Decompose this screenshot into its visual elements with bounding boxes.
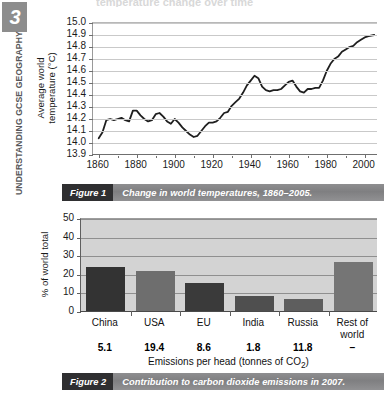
figure-1-caption-label: Figure 1	[62, 184, 113, 201]
figure-1-caption-text: Change in world temperatures, 1860–2005.	[113, 184, 312, 201]
chapter-side-strip: 3 UNDERSTANDING GCSE GEOGRAPHY	[0, 0, 30, 404]
figure-1-y-tick-mark	[89, 155, 93, 156]
figure-2-category-label: China	[80, 317, 130, 329]
figure-1-x-tick-mark	[137, 154, 138, 158]
figure-1-y-tick-label: 14.6	[30, 65, 86, 75]
figure-2-y-tick-label: 50	[30, 213, 74, 223]
figure-2-gridline	[81, 293, 377, 294]
figure-1-x-tick-mark	[251, 154, 252, 158]
figure-1-x-tick-label: 1880	[116, 160, 156, 170]
figure-1-y-tick-mark	[89, 23, 93, 24]
figure-1-y-tick-label: 14.5	[30, 77, 86, 87]
figure-2-category-label: India	[229, 317, 279, 329]
figure-1-y-tick-label: 15.0	[30, 17, 86, 27]
figure-1-x-tick-mark	[346, 156, 347, 159]
figure-2-category-label: EU	[179, 317, 229, 329]
figure-2-gridline	[81, 256, 377, 257]
figure-1-y-tick-mark	[89, 47, 93, 48]
figure-1-y-tick-label: 14.2	[30, 113, 86, 123]
figure-1-y-tick-mark	[89, 83, 93, 84]
bar	[235, 296, 274, 311]
category-label-line: world	[340, 329, 364, 340]
figure-1-temperature-line	[93, 23, 378, 155]
figure-2-category-label: Rest ofworld	[328, 317, 378, 340]
figure-1-caption-bar: Figure 1 Change in world temperatures, 1…	[62, 184, 384, 201]
figure-1-y-tick-mark	[89, 131, 93, 132]
category-label-line: Russia	[287, 317, 318, 328]
figure-1-gridline	[93, 35, 377, 36]
figure-1-y-tick-mark	[89, 71, 93, 72]
figure-1-gridline	[93, 23, 377, 24]
figure-1-y-tick-label: 14.1	[30, 125, 86, 135]
figure-1-y-tick-mark	[89, 95, 93, 96]
figure-1-block: Average world temperature (°C) Figure 1 …	[30, 14, 385, 204]
figure-1-gridline	[93, 47, 377, 48]
figure-2-category-separator	[279, 311, 280, 316]
figure-2-y-tick-mark	[77, 275, 81, 276]
figure-1-y-tick-label: 14.3	[30, 101, 86, 111]
figure-2-gridline	[81, 219, 377, 220]
figure-1-x-tick-mark	[270, 156, 271, 159]
figure-2-caption-bar: Figure 2 Contribution to carbon dioxide …	[62, 373, 384, 390]
figure-1-x-tick-label: 1860	[78, 160, 118, 170]
figure-1-gridline	[93, 59, 377, 60]
figure-1-x-tick-mark	[118, 156, 119, 159]
figure-2-plot-area	[80, 218, 377, 311]
category-label-line: Rest of	[336, 317, 368, 328]
figure-2-x-axis-title: Emissions per head (tonnes of CO2)	[80, 356, 377, 370]
figure-1-x-tick-mark	[99, 154, 100, 158]
figure-1-x-tick-label: 1940	[230, 160, 270, 170]
figure-1-y-tick-mark	[89, 59, 93, 60]
figure-1-gridline	[93, 83, 377, 84]
figure-2-y-tick-mark	[77, 293, 81, 294]
figure-1-y-tick-label: 14.0	[30, 137, 86, 147]
figure-2-y-tick-mark	[77, 219, 81, 220]
figure-2-category-separator	[131, 311, 132, 316]
figure-1-x-tick-mark	[213, 154, 214, 158]
figure-1-y-tick-mark	[89, 119, 93, 120]
figure-1-x-tick-mark	[327, 154, 328, 158]
figure-1-x-tick-label: 1960	[268, 160, 308, 170]
figure-1-x-tick-mark	[365, 154, 366, 158]
figure-1-y-tick-label: 14.4	[30, 89, 86, 99]
figure-1-x-tick-mark	[175, 154, 176, 158]
bar	[185, 283, 224, 311]
figure-1-y-tick-label: 14.9	[30, 29, 86, 39]
figure-1-gridline	[93, 107, 377, 108]
figure-1-plot-area	[92, 22, 377, 154]
figure-1-y-tick-mark	[89, 143, 93, 144]
category-label-line: India	[242, 317, 264, 328]
figure-1-gridline	[93, 71, 377, 72]
emissions-per-head-value: 1.8	[229, 342, 279, 353]
figure-1-x-tick-mark	[289, 154, 290, 158]
figure-2-caption-text: Contribution to carbon dioxide emissions…	[113, 373, 345, 390]
bar	[136, 271, 175, 311]
figure-2-gridline	[81, 275, 377, 276]
figure-1-gridline	[93, 119, 377, 120]
figure-2-y-tick-mark	[77, 312, 81, 313]
category-label-line: EU	[197, 317, 211, 328]
figure-1-y-tick-mark	[89, 35, 93, 36]
figure-2-block: % of world total Emissions per head (ton…	[30, 212, 385, 404]
figure-2-y-tick-mark	[77, 256, 81, 257]
figure-2-category-label: Russia	[278, 317, 328, 329]
figure-1-x-tick-mark	[308, 156, 309, 159]
figure-2-y-tick-label: 40	[30, 232, 74, 242]
cut-off-heading-text: temperature change over time	[96, 0, 336, 7]
figure-2-y-tick-label: 0	[30, 306, 74, 316]
category-label-line: USA	[144, 317, 165, 328]
figure-2-category-separator	[329, 311, 330, 316]
figure-1-y-tick-label: 13.9	[30, 149, 86, 159]
figure-2-y-tick-label: 10	[30, 287, 74, 297]
figure-1-x-tick-label: 1920	[192, 160, 232, 170]
emissions-per-head-value: 19.4	[130, 342, 180, 353]
figure-2-category-separator	[230, 311, 231, 316]
figure-2-y-tick-mark	[77, 238, 81, 239]
emissions-per-head-value: 8.6	[179, 342, 229, 353]
emissions-per-head-value: 5.1	[80, 342, 130, 353]
bar	[334, 262, 373, 311]
bar	[86, 267, 125, 311]
figure-2-y-tick-label: 30	[30, 250, 74, 260]
emissions-per-head-value: –	[328, 342, 378, 353]
figure-1-x-tick-mark	[232, 156, 233, 159]
